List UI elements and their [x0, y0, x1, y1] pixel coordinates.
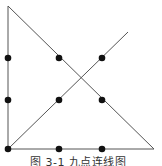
grid-dot [5, 146, 12, 153]
grid-dot [99, 146, 106, 153]
grid-dot [5, 97, 12, 104]
connecting-line [8, 32, 128, 149]
grid-dot [99, 97, 106, 104]
nine-dot-diagram [0, 0, 162, 166]
connecting-lines [8, 6, 154, 149]
grid-dot [56, 97, 63, 104]
grid-dot [56, 146, 63, 153]
figure-caption: 图 3-1 九点连线图 [30, 153, 126, 166]
grid-dot [56, 55, 63, 62]
grid-dot [99, 55, 106, 62]
grid-dot [5, 55, 12, 62]
